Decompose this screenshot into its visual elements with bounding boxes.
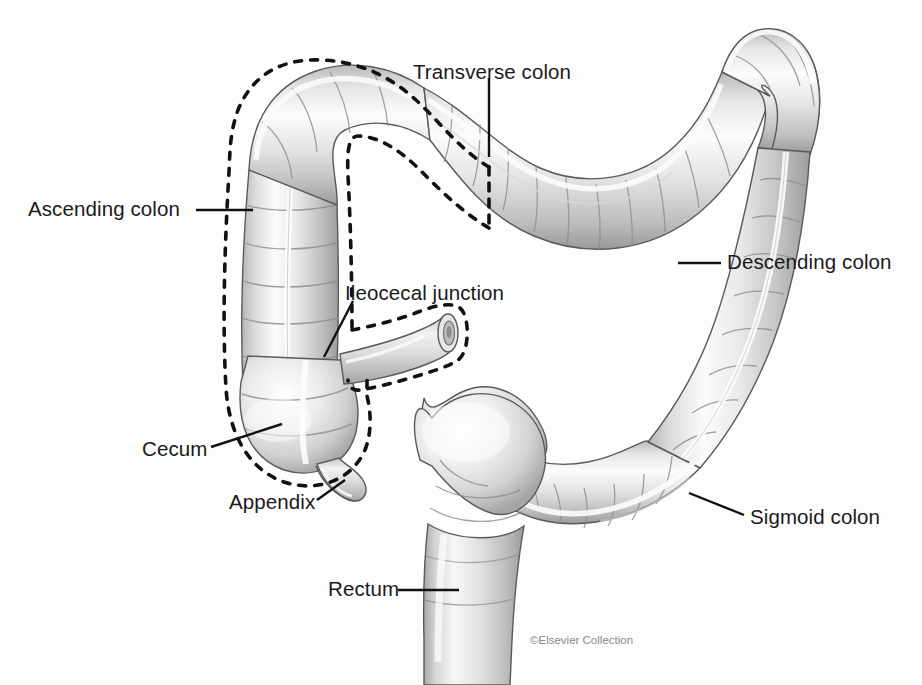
label-descending-colon: Descending colon [727, 252, 892, 273]
colon-anatomy-figure: Transverse colon Ascending colon Descend… [0, 0, 922, 685]
cecum-structure [240, 356, 358, 473]
label-appendix: Appendix [229, 492, 315, 513]
label-ascending-colon: Ascending colon [28, 199, 180, 220]
ileum-structure [340, 314, 458, 384]
label-ileocecal-junction: Ileocecal junction [345, 283, 504, 304]
transverse-colon-structure [424, 72, 770, 250]
label-sigmoid-colon: Sigmoid colon [750, 507, 880, 528]
label-cecum: Cecum [142, 439, 207, 460]
rectum-structure [424, 524, 524, 685]
label-transverse-colon: Transverse colon [413, 62, 571, 83]
sigmoid-colon-leader [689, 493, 744, 515]
copyright-credit: ©Elsevier Collection [530, 634, 633, 646]
colon-illustration [0, 0, 922, 685]
rectosigmoid-bulb [415, 387, 547, 521]
label-rectum: Rectum [328, 579, 399, 600]
